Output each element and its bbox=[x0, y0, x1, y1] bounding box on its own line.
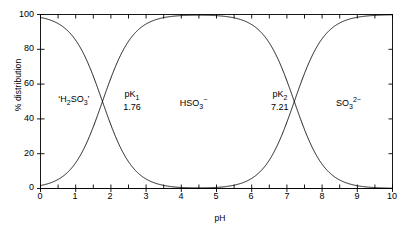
plot-area bbox=[0, 0, 415, 235]
annotation-pk2: pK27.21 bbox=[220, 89, 340, 114]
speciation-chart: % distribution 100 80 60 40 20 0 0 1 2 3… bbox=[0, 0, 415, 235]
annotation-pk1: pK11.76 bbox=[72, 89, 192, 114]
